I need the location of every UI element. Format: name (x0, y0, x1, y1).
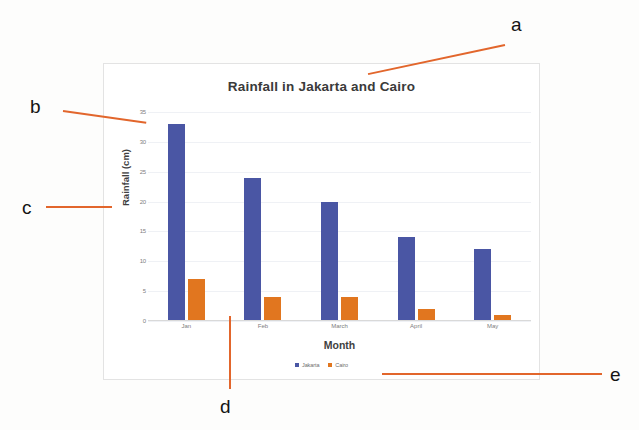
bar-jakarta-feb[interactable] (244, 178, 261, 321)
bar-cairo-feb[interactable] (264, 297, 281, 321)
x-axis-tick-labels: JanFebMarchAprilMay (148, 323, 531, 337)
legend-label-cairo: Cairo (335, 362, 348, 368)
x-axis-title: Month (148, 339, 531, 351)
bar-jakarta-may[interactable] (474, 249, 491, 321)
y-axis-tick-30: 30 (124, 139, 146, 145)
y-axis-tick-25: 25 (124, 169, 146, 175)
bar-group-jan (148, 112, 225, 321)
y-axis-tick-0: 0 (124, 318, 146, 324)
bar-cairo-jan[interactable] (188, 279, 205, 321)
bar-jakarta-april[interactable] (398, 237, 415, 321)
annotation-label-e: e (610, 364, 621, 386)
bar-group-april (378, 112, 455, 321)
annotation-leader-d (229, 316, 231, 389)
annotation-label-c: c (22, 197, 32, 219)
chart-container: Rainfall in Jakarta and Cairo Rainfall (… (103, 63, 540, 380)
x-axis-tick-jan: Jan (181, 323, 191, 329)
annotation-leader-e (382, 373, 602, 375)
annotation-label-a: a (511, 14, 522, 36)
y-axis-tick-20: 20 (124, 199, 146, 205)
x-axis-tick-april: April (410, 323, 422, 329)
legend-swatch-cairo (328, 363, 332, 367)
gridline-0 (148, 321, 531, 322)
bar-group-may (454, 112, 531, 321)
x-axis-tick-march: March (331, 323, 348, 329)
chart-title: Rainfall in Jakarta and Cairo (104, 79, 539, 94)
legend-swatch-jakarta (295, 363, 299, 367)
y-axis-tick-labels: 05101520253035 (124, 112, 146, 321)
bar-jakarta-jan[interactable] (168, 124, 185, 321)
annotation-leader-c (46, 206, 112, 208)
bar-group-feb (225, 112, 302, 321)
y-axis-tick-10: 10 (124, 258, 146, 264)
annotation-label-b: b (30, 96, 41, 118)
y-axis-tick-35: 35 (124, 109, 146, 115)
x-axis-line (148, 320, 531, 321)
bar-cairo-march[interactable] (341, 297, 358, 321)
chart-legend: JakartaCairo (104, 362, 539, 368)
x-axis-tick-feb: Feb (258, 323, 268, 329)
legend-item-cairo[interactable]: Cairo (328, 362, 348, 368)
x-axis-tick-may: May (487, 323, 498, 329)
annotation-label-d: d (220, 396, 231, 418)
y-axis-tick-5: 5 (124, 288, 146, 294)
y-axis-tick-15: 15 (124, 228, 146, 234)
plot-area (148, 112, 531, 321)
legend-label-jakarta: Jakarta (302, 362, 319, 368)
legend-item-jakarta[interactable]: Jakarta (295, 362, 319, 368)
bar-group-march (301, 112, 378, 321)
bar-jakarta-march[interactable] (321, 202, 338, 321)
